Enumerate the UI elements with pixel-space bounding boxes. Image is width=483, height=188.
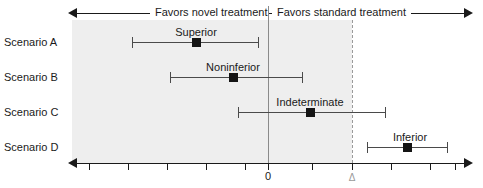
axis-arrow-right-icon <box>464 158 473 168</box>
axis-arrow-left-icon <box>68 158 77 168</box>
delta-reference-line <box>352 20 353 163</box>
x-axis-line <box>77 163 464 164</box>
ci-cap-low-scenario-b <box>170 72 171 83</box>
ci-cap-high-scenario-a <box>258 37 259 48</box>
ci-cap-low-scenario-d <box>367 142 368 153</box>
ci-point-estimate-scenario-c <box>306 108 315 117</box>
header-label-favors-standard: Favors standard treatment <box>272 5 411 19</box>
ci-point-estimate-scenario-a <box>192 38 201 47</box>
ci-verdict-label-scenario-d: Inferior <box>393 131 427 143</box>
axis-tick <box>391 164 392 170</box>
row-label-scenario-b: Scenario B <box>4 71 58 83</box>
forest-plot-figure: Favors novel treatment Favors standard t… <box>0 0 483 188</box>
axis-tick <box>206 164 207 170</box>
ci-cap-high-scenario-d <box>447 142 448 153</box>
ci-cap-high-scenario-b <box>302 72 303 83</box>
row-label-scenario-d: Scenario D <box>4 141 58 153</box>
axis-tick <box>430 164 431 170</box>
zero-reference-line <box>268 6 269 163</box>
ci-verdict-label-scenario-b: Noninferior <box>206 61 260 73</box>
ci-cap-low-scenario-c <box>238 107 239 118</box>
header-arrow-left-icon <box>68 8 77 18</box>
axis-label-delta: Δ <box>349 172 356 183</box>
axis-tick <box>89 164 90 170</box>
ci-cap-low-scenario-a <box>132 37 133 48</box>
ci-verdict-label-scenario-c: Indeterminate <box>276 96 343 108</box>
axis-tick <box>128 164 129 170</box>
axis-tick <box>167 164 168 170</box>
axis-tick <box>245 164 246 170</box>
axis-label-zero: 0 <box>265 170 271 182</box>
row-label-scenario-a: Scenario A <box>4 36 57 48</box>
ci-verdict-label-scenario-a: Superior <box>175 26 217 38</box>
header-arrow-right-icon <box>464 8 473 18</box>
axis-tick-delta <box>352 164 353 170</box>
header-label-favors-novel: Favors novel treatment <box>150 5 273 19</box>
ci-cap-high-scenario-c <box>385 107 386 118</box>
ci-point-estimate-scenario-b <box>229 73 238 82</box>
axis-tick <box>312 164 313 170</box>
axis-tick <box>455 164 456 170</box>
ci-point-estimate-scenario-d <box>403 143 412 152</box>
row-label-scenario-c: Scenario C <box>4 106 58 118</box>
